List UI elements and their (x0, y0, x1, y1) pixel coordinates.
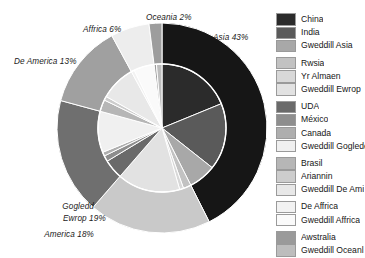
legend-label: UDA (301, 100, 319, 113)
ring-label-ewrop: Ewrop 19% (63, 214, 106, 223)
legend-label: China (301, 13, 323, 26)
legend-swatch (276, 231, 296, 243)
legend-item[interactable]: Gweddill Asia (276, 39, 365, 52)
legend-swatch (276, 13, 296, 25)
legend-item[interactable]: Gweddill Oceanl (276, 244, 365, 257)
legend-label: Yr Almaen (301, 70, 341, 83)
legend-label: Gweddill Goglede (301, 140, 365, 153)
legend-group-asia: ChinaIndiaGweddill Asia (276, 13, 365, 53)
legend-swatch (276, 27, 296, 39)
ring-label-gogledd-line1: Gogledd (26, 202, 94, 211)
legend-swatch (276, 157, 296, 169)
ring-label-affrica: Affrica 6% (83, 25, 121, 34)
legend-item[interactable]: Gweddill De Ami (276, 183, 365, 196)
legend-item[interactable]: Gweddill Goglede (276, 140, 365, 153)
chart-legend: ChinaIndiaGweddill AsiaRwsiaYr AlmaenGwe… (276, 13, 365, 233)
legend-label: India (301, 26, 320, 39)
legend-label: Gweddill De Ami (301, 183, 364, 196)
legend-item[interactable]: Gweddill Affrica (276, 214, 365, 227)
legend-swatch (276, 57, 296, 69)
legend-swatch (276, 101, 296, 113)
legend-label: Brasil (301, 157, 323, 170)
legend-label: Canada (301, 127, 331, 140)
ring-label-asia: Asia 43% (213, 33, 248, 42)
legend-label: Gweddill Ewrop (301, 83, 361, 96)
legend-label: Awstralia (301, 231, 336, 244)
legend-item[interactable]: Brasil (276, 157, 365, 170)
legend-item[interactable]: UDA (276, 100, 365, 113)
legend-label: Rwsia (301, 57, 324, 70)
legend-swatch (276, 127, 296, 139)
legend-item[interactable]: Ariannin (276, 170, 365, 183)
legend-item[interactable]: India (276, 26, 365, 39)
ring-label-oceania: Oceania 2% (146, 13, 192, 22)
legend-item[interactable]: Yr Almaen (276, 70, 365, 83)
legend-group-affrica: De AffricaGweddill Affrica (276, 200, 365, 226)
legend-label: Gweddill Asia (301, 39, 353, 52)
legend-label: México (301, 113, 328, 126)
legend-swatch (276, 83, 296, 95)
legend-item[interactable]: Awstralia (276, 231, 365, 244)
legend-item[interactable]: Gweddill Ewrop (276, 83, 365, 96)
legend-swatch (276, 201, 296, 213)
legend-label: De Affrica (301, 200, 338, 213)
ring-label-gogledd-line2: America 18% (26, 230, 94, 239)
legend-item[interactable]: De Affrica (276, 200, 365, 213)
legend-item[interactable]: Canada (276, 127, 365, 140)
legend-group-ewrop: RwsiaYr AlmaenGweddill Ewrop (276, 57, 365, 97)
legend-swatch (276, 70, 296, 82)
legend-swatch (276, 170, 296, 182)
legend-item[interactable]: China (276, 13, 365, 26)
legend-group-gogledd-america: UDAMéxicoCanadaGweddill Goglede (276, 100, 365, 153)
legend-swatch (276, 244, 296, 256)
legend-swatch (276, 114, 296, 126)
legend-label: Gweddill Affrica (301, 214, 360, 227)
legend-item[interactable]: Rwsia (276, 57, 365, 70)
legend-swatch (276, 40, 296, 52)
legend-label: Gweddill Oceanl (301, 244, 364, 257)
legend-item[interactable]: México (276, 113, 365, 126)
legend-swatch (276, 140, 296, 152)
ring-label-de-america: De America 13% (14, 57, 77, 66)
legend-label: Ariannin (301, 170, 333, 183)
legend-swatch (276, 214, 296, 226)
legend-swatch (276, 184, 296, 196)
legend-group-oceania: AwstraliaGweddill Oceanl (276, 231, 365, 257)
legend-group-de-america: BrasilArianninGweddill De Ami (276, 157, 365, 197)
